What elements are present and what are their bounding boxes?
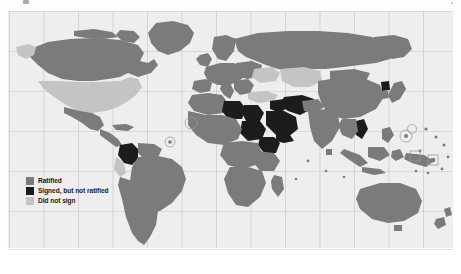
region-scandinavia (212, 35, 236, 61)
region-morocco-algeria-tunisia (188, 93, 228, 115)
scan-artifact-mark (23, 0, 29, 4)
region-southern-africa (224, 167, 266, 207)
legend-swatch-signed-not-ratified (26, 187, 34, 195)
region-philippines (382, 127, 394, 143)
region-canada-arctic-isles (74, 29, 118, 39)
region-greenland (148, 21, 194, 55)
region-australia (356, 183, 422, 223)
region-east-africa (254, 151, 280, 171)
region-united-states (38, 77, 142, 113)
legend-swatch-did-not-sign (26, 197, 34, 205)
region-tasmania (394, 225, 402, 231)
region-borneo (368, 147, 390, 161)
page-bottom-rule (8, 249, 453, 250)
region-balkans (234, 79, 254, 95)
region-mainland-sea (338, 119, 358, 139)
region-north-korea (381, 81, 390, 91)
region-british-isles (196, 53, 212, 67)
region-canada (30, 38, 158, 81)
region-kazakhstan (280, 67, 322, 87)
region-ukraine (252, 67, 280, 83)
world-map-graphic (8, 11, 453, 248)
region-caribbean (112, 124, 134, 131)
region-madagascar (271, 175, 284, 197)
region-indonesia-java (362, 167, 386, 175)
legend-label-did-not-sign: Did not sign (38, 196, 76, 205)
region-saudi-arabia (266, 111, 298, 137)
region-new-zealand-north (444, 207, 452, 217)
region-new-zealand-south (434, 217, 446, 229)
region-indonesia-sumatra (340, 149, 368, 167)
legend-item-did-not-sign: Did not sign (26, 196, 139, 206)
region-egypt (242, 105, 264, 121)
region-sri-lanka (326, 149, 332, 155)
legend-item-signed-not-ratified: Signed, but not ratified (26, 186, 139, 196)
map-legend: Ratified Signed, but not ratified Did no… (22, 172, 142, 210)
page-bottom-margin (0, 248, 461, 274)
legend-label-ratified: Ratified (38, 176, 62, 185)
page-background: Ratified Signed, but not ratified Did no… (0, 0, 461, 274)
world-map-panel: Ratified Signed, but not ratified Did no… (8, 11, 453, 248)
region-sulawesi (391, 149, 404, 161)
region-south-korea (382, 91, 389, 99)
legend-item-ratified: Ratified (26, 176, 139, 186)
region-central-america (100, 129, 122, 147)
legend-label-signed-not-ratified: Signed, but not ratified (38, 186, 109, 195)
region-japan (388, 81, 406, 103)
legend-swatch-ratified (26, 177, 34, 185)
